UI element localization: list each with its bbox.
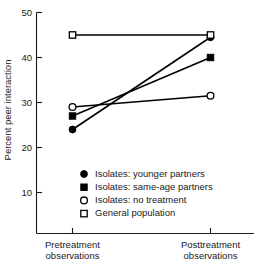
data-point-s3-p0 — [69, 32, 75, 38]
series-line-0 — [73, 37, 211, 129]
data-point-s3-p1 — [207, 32, 213, 38]
y-tick-label-10: 10 — [21, 187, 32, 198]
y-tick-label-30: 30 — [21, 97, 32, 108]
y-axis-ticks: 50 40 30 20 10 — [21, 7, 42, 198]
legend-marker-3 — [81, 210, 87, 216]
x-tick-label-pretreatment-line2: observations — [46, 250, 100, 261]
chart-container: Percent peer interaction 50 40 30 20 10 … — [0, 0, 257, 262]
legend-label-2: Isolates: no treatment — [95, 194, 187, 205]
legend-marker-0 — [81, 171, 88, 178]
series-1 — [73, 58, 211, 117]
data-point-s2-p1 — [207, 92, 214, 99]
series-line-2 — [73, 96, 211, 107]
legend-label-1: Isolates: same-age partners — [95, 181, 213, 192]
data-point-s2-p0 — [69, 104, 76, 111]
x-tick-label-posttreatment-line1: Posttreatment — [181, 239, 240, 250]
y-tick-label-20: 20 — [21, 142, 32, 153]
legend-marker-1 — [81, 184, 87, 190]
peer-interaction-line-chart: Percent peer interaction 50 40 30 20 10 … — [0, 0, 257, 262]
chart-legend: Isolates: younger partnersIsolates: same… — [81, 168, 213, 219]
x-tick-label-pretreatment-line1: Pretreatment — [45, 239, 100, 250]
series-line-1 — [73, 58, 211, 117]
data-point-s1-p0 — [69, 113, 75, 119]
y-axis-label: Percent peer interaction — [2, 60, 13, 161]
data-series-layer — [69, 32, 214, 133]
legend-label-3: General population — [95, 207, 175, 218]
y-tick-label-40: 40 — [21, 52, 32, 63]
legend-label-0: Isolates: younger partners — [95, 168, 205, 179]
legend-marker-2 — [81, 197, 88, 204]
series-0 — [73, 37, 211, 129]
x-tick-label-posttreatment-line2: observations — [184, 250, 238, 261]
y-tick-label-50: 50 — [21, 7, 32, 18]
data-point-s0-p0 — [69, 126, 76, 133]
series-2 — [73, 96, 211, 107]
data-point-s1-p1 — [207, 54, 213, 60]
